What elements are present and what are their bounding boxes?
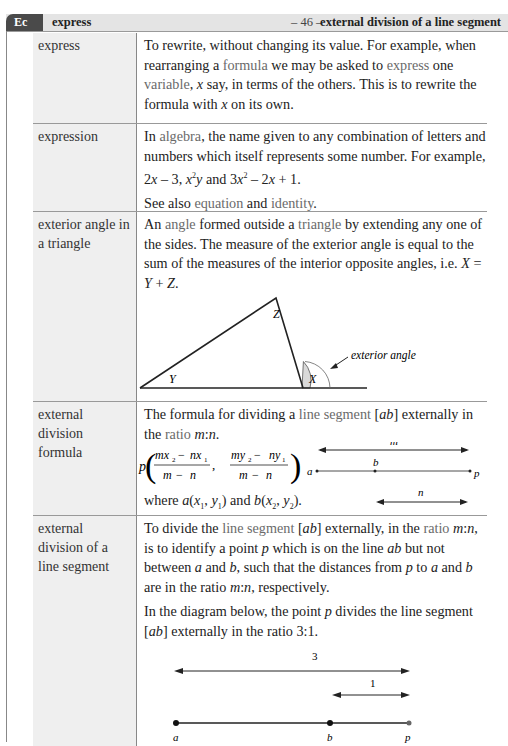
svg-text:m: m <box>163 468 172 482</box>
entry-definition: The formula for dividing a line segment … <box>137 402 487 515</box>
entry-row: expression In algebra, the name given to… <box>33 124 487 212</box>
svg-text:n: n <box>418 490 424 498</box>
entry-term: express <box>33 33 137 123</box>
entry-definition: In algebra, the name given to any combin… <box>137 124 487 211</box>
header-last-word: external division of a line segment <box>320 14 501 31</box>
svg-text:): ) <box>290 447 301 485</box>
entry-row: express To rewrite, without changing its… <box>33 33 487 124</box>
svg-text:a: a <box>307 465 313 477</box>
entry-term: exterior angle in a triangle <box>33 212 137 401</box>
entry-term: external division of a line segment <box>33 516 137 746</box>
triangle-diagram: Z Y X exterior angle <box>137 289 477 399</box>
page-number: – 46 – <box>291 14 322 31</box>
svg-text:,: , <box>212 457 215 472</box>
entry-row: external division formula The formula fo… <box>33 402 487 516</box>
svg-text:a: a <box>173 731 179 743</box>
entry-definition: To divide the line segment [ab] external… <box>137 516 487 746</box>
xref-link[interactable]: formula <box>223 57 268 73</box>
header-first-word: express <box>52 14 91 31</box>
svg-text:b: b <box>327 731 333 743</box>
svg-text:m: m <box>239 468 248 482</box>
svg-text:2: 2 <box>172 456 176 464</box>
label-y: Y <box>169 372 177 386</box>
xref-link[interactable]: ratio <box>423 520 449 536</box>
xref-link[interactable]: express <box>387 57 430 73</box>
svg-text:−: − <box>178 448 185 462</box>
n-arrow: n <box>374 490 474 506</box>
entry-row: external division of a line segment To d… <box>33 516 487 746</box>
xref-link[interactable]: equation <box>194 195 243 211</box>
svg-text:1: 1 <box>282 456 286 464</box>
svg-text:nx: nx <box>190 448 202 462</box>
ratio-diagram: 3 1 a b p <box>137 651 437 746</box>
formula-and-diagram: p ( mx2 − nx1 m − n , my2 − ny1 m − n ) … <box>137 442 487 497</box>
svg-text:1: 1 <box>204 456 208 464</box>
section-tab: Ec <box>6 14 43 31</box>
label-x: X <box>308 372 317 386</box>
svg-text:1: 1 <box>370 677 376 689</box>
entry-definition: An angle formed outside a triangle by ex… <box>137 212 487 401</box>
xref-link[interactable]: line segment <box>222 520 294 536</box>
svg-text:3: 3 <box>312 651 318 662</box>
xref-link[interactable]: ratio <box>165 426 191 442</box>
xref-link[interactable]: identity <box>271 195 313 211</box>
svg-text:mx: mx <box>155 448 170 462</box>
svg-text:−: − <box>252 468 259 482</box>
label-z: Z <box>273 307 280 321</box>
exterior-angle-label: exterior angle <box>351 349 416 362</box>
svg-text:−: − <box>176 468 183 482</box>
svg-text:my: my <box>231 448 246 462</box>
svg-text:n: n <box>190 468 196 482</box>
svg-text:−: − <box>254 448 261 462</box>
entry-definition: To rewrite, without changing its value. … <box>137 33 487 123</box>
entry-term: expression <box>33 124 137 211</box>
glossary-table: express To rewrite, without changing its… <box>33 33 487 746</box>
entry-row: exterior angle in a triangle An angle fo… <box>33 212 487 402</box>
xref-link[interactable]: variable <box>144 76 190 92</box>
xref-link[interactable]: algebra <box>159 128 201 144</box>
svg-text:b: b <box>373 456 379 468</box>
svg-text:p: p <box>473 467 480 479</box>
svg-text:ny: ny <box>269 448 281 462</box>
page-header: Ec express – 46 – external division of a… <box>6 14 508 32</box>
svg-text:2: 2 <box>248 456 252 464</box>
entry-term: external division formula <box>33 402 137 515</box>
svg-text:p: p <box>404 731 411 743</box>
svg-text:n: n <box>266 468 272 482</box>
xref-link[interactable]: angle <box>165 216 196 232</box>
svg-text:m: m <box>390 442 398 447</box>
xref-link[interactable]: triangle <box>298 216 341 232</box>
xref-link[interactable]: line segment <box>299 406 371 422</box>
page-border <box>6 31 7 742</box>
